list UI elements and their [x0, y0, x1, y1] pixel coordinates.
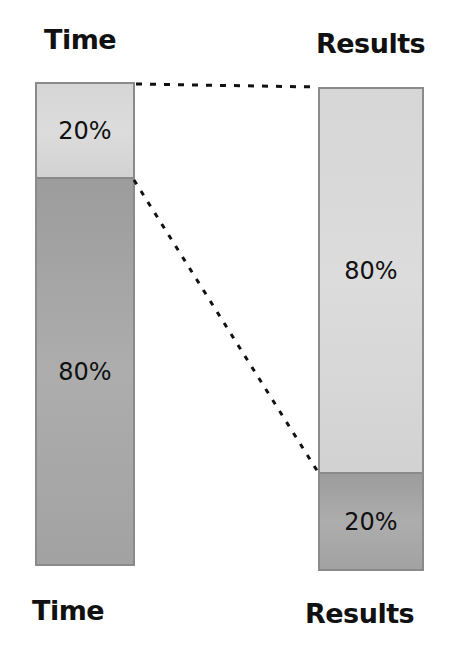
bottom-right-title: Results [305, 598, 414, 629]
boundary-connector-line [134, 180, 318, 472]
top-connector-line [136, 84, 318, 87]
connector-lines [0, 0, 459, 650]
bottom-left-title: Time [32, 595, 104, 626]
